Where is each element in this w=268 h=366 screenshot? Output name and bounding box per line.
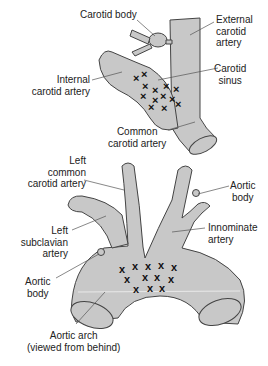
svg-text:x: x (159, 282, 166, 294)
label-aortic-arch: Aortic arch (viewed from behind) (27, 330, 120, 353)
label-line: Aortic (25, 276, 51, 288)
label-line: common (28, 167, 86, 179)
label-line: Left (21, 225, 68, 237)
label-line: subclavian (21, 237, 68, 249)
svg-text:x: x (147, 282, 154, 294)
label-line: artery (21, 248, 68, 260)
label-aortic-body-left: Aortic body (25, 276, 51, 299)
svg-text:x: x (132, 260, 139, 272)
left-subclavian-vessel (68, 196, 128, 248)
label-line: Carotid (214, 63, 246, 75)
label-line: Common (108, 126, 166, 138)
label-line: artery (208, 234, 257, 246)
label-line: body (230, 192, 256, 204)
svg-text:×: × (175, 98, 181, 110)
svg-text:x: x (171, 261, 178, 273)
svg-text:x: x (133, 283, 140, 295)
svg-text:×: × (133, 72, 139, 84)
label-line: External (216, 14, 253, 26)
svg-text:×: × (148, 101, 154, 113)
label-internal-carotid: Internal carotid artery (32, 74, 90, 97)
svg-text:×: × (160, 90, 166, 102)
label-aortic-body-right: Aortic body (230, 180, 256, 203)
label-left-subclavian: Left subclavian artery (21, 225, 68, 260)
carotid-body-shape (149, 33, 167, 47)
svg-text:×: × (141, 68, 147, 80)
label-line: carotid (216, 26, 253, 38)
label-carotid-sinus: Carotid sinus (214, 63, 246, 86)
label-external-carotid: External carotid artery (216, 14, 253, 49)
svg-text:x: x (168, 273, 175, 285)
label-line: Aortic (230, 180, 256, 192)
label-line: carotid artery (32, 86, 90, 98)
label-line: Innominate (208, 222, 257, 234)
label-line: (viewed from behind) (27, 342, 120, 354)
label-line: Left (28, 155, 86, 167)
label-line: artery (216, 37, 253, 49)
label-line: Internal (32, 74, 90, 86)
label-carotid-body: Carotid body (80, 9, 137, 21)
label-line: body (25, 288, 51, 300)
label-common-carotid: Common carotid artery (108, 126, 166, 149)
svg-text:x: x (124, 273, 131, 285)
label-line: carotid artery (108, 138, 166, 150)
svg-text:×: × (140, 90, 146, 102)
aortic-body-right-shape (193, 190, 200, 197)
svg-text:x: x (158, 259, 165, 271)
label-line: sinus (214, 75, 246, 87)
label-innominate: Innominate artery (208, 222, 257, 245)
label-line: Aortic arch (27, 330, 120, 342)
label-left-common-carotid: Left common carotid artery (28, 155, 86, 190)
label-line: carotid artery (28, 178, 86, 190)
svg-text:×: × (161, 102, 167, 114)
